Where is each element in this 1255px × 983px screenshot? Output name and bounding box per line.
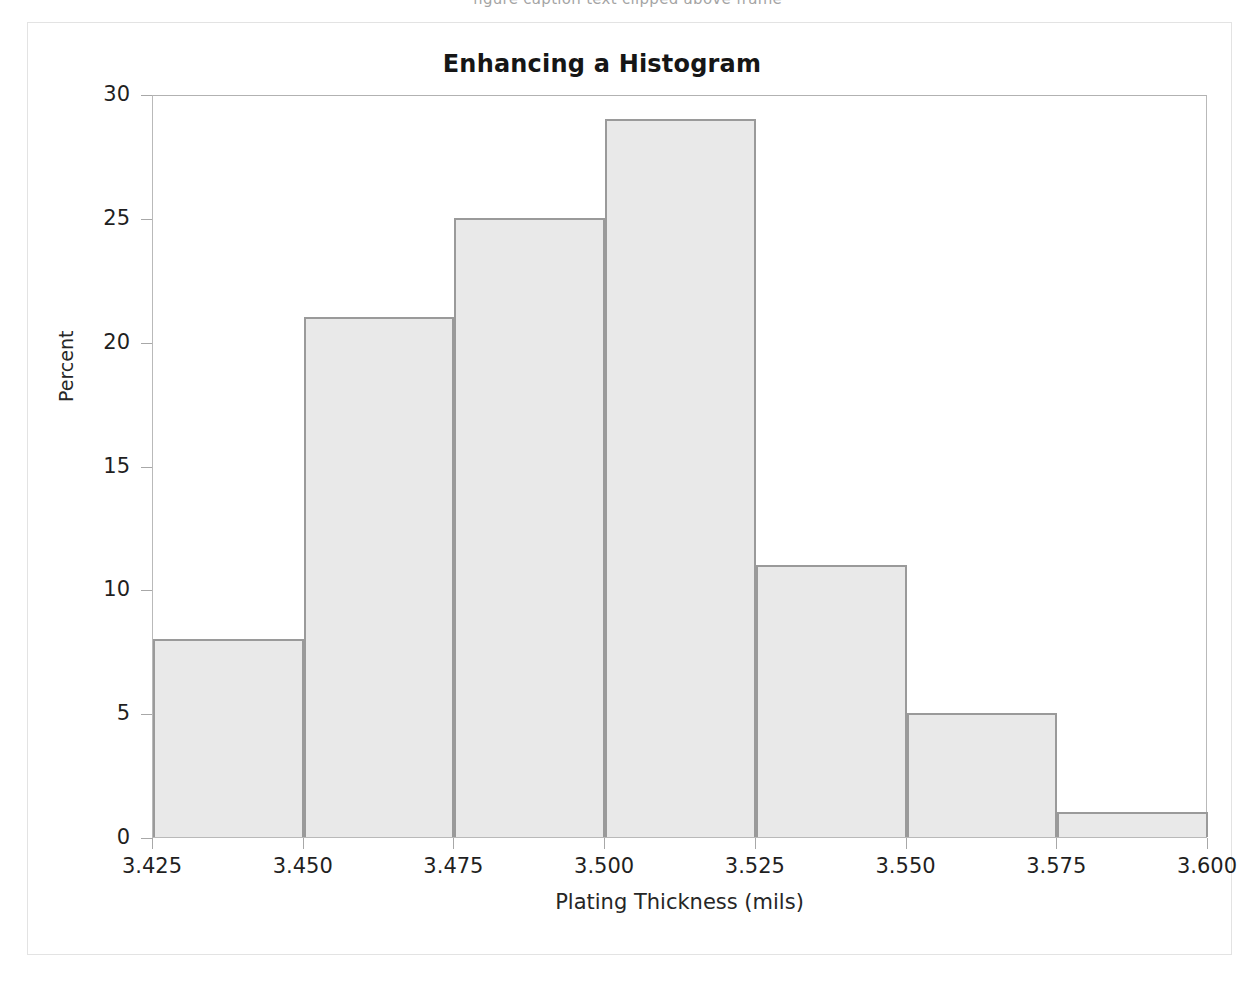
y-axis-tick-label: 10 xyxy=(103,577,130,601)
x-axis-tick-mark xyxy=(152,838,153,849)
clipped-caption-above-frame: figure caption text clipped above frame xyxy=(0,0,1255,12)
plot-area xyxy=(152,95,1207,838)
y-axis-tick-mark xyxy=(141,95,152,96)
x-axis-tick-label: 3.475 xyxy=(423,854,483,878)
histogram-bar xyxy=(304,317,455,837)
histogram-bar xyxy=(153,639,304,837)
histogram-bar xyxy=(756,565,907,837)
x-axis-title: Plating Thickness (mils) xyxy=(152,890,1207,914)
x-axis-tick-mark xyxy=(755,838,756,849)
x-axis-tick-label: 3.425 xyxy=(122,854,182,878)
y-axis-tick-label: 25 xyxy=(103,206,130,230)
histogram-chart: Enhancing a Histogram 051015202530 Perce… xyxy=(27,22,1232,955)
y-axis-tick-mark xyxy=(141,590,152,591)
x-axis-tick-label: 3.550 xyxy=(876,854,936,878)
histogram-bar xyxy=(1057,812,1208,837)
y-axis-tick-mark xyxy=(141,838,152,839)
x-axis-tick-mark xyxy=(906,838,907,849)
x-axis-tick-mark xyxy=(1207,838,1208,849)
y-axis-tick-label: 15 xyxy=(103,454,130,478)
x-axis-tick-mark xyxy=(453,838,454,849)
x-axis: 3.4253.4503.4753.5003.5253.5503.5753.600 xyxy=(152,838,1232,898)
y-axis-title: Percent xyxy=(55,331,77,403)
y-axis-tick-mark xyxy=(141,219,152,220)
y-axis-tick-mark xyxy=(141,714,152,715)
x-axis-tick-label: 3.600 xyxy=(1177,854,1237,878)
y-axis-tick-mark xyxy=(141,343,152,344)
y-axis: 051015202530 xyxy=(27,95,152,839)
x-axis-tick-label: 3.575 xyxy=(1026,854,1086,878)
y-axis-tick-label: 0 xyxy=(117,825,130,849)
histogram-bar xyxy=(605,119,756,837)
y-axis-tick-label: 5 xyxy=(117,701,130,725)
chart-title: Enhancing a Histogram xyxy=(27,50,1177,78)
x-axis-tick-label: 3.525 xyxy=(725,854,785,878)
y-axis-tick-label: 20 xyxy=(103,330,130,354)
x-axis-tick-mark xyxy=(604,838,605,849)
x-axis-tick-label: 3.450 xyxy=(273,854,333,878)
y-axis-tick-mark xyxy=(141,467,152,468)
histogram-bar xyxy=(907,713,1058,837)
x-axis-tick-mark xyxy=(303,838,304,849)
histogram-bars xyxy=(153,96,1206,837)
y-axis-tick-label: 30 xyxy=(103,82,130,106)
x-axis-tick-mark xyxy=(1056,838,1057,849)
histogram-bar xyxy=(454,218,605,837)
x-axis-tick-label: 3.500 xyxy=(574,854,634,878)
